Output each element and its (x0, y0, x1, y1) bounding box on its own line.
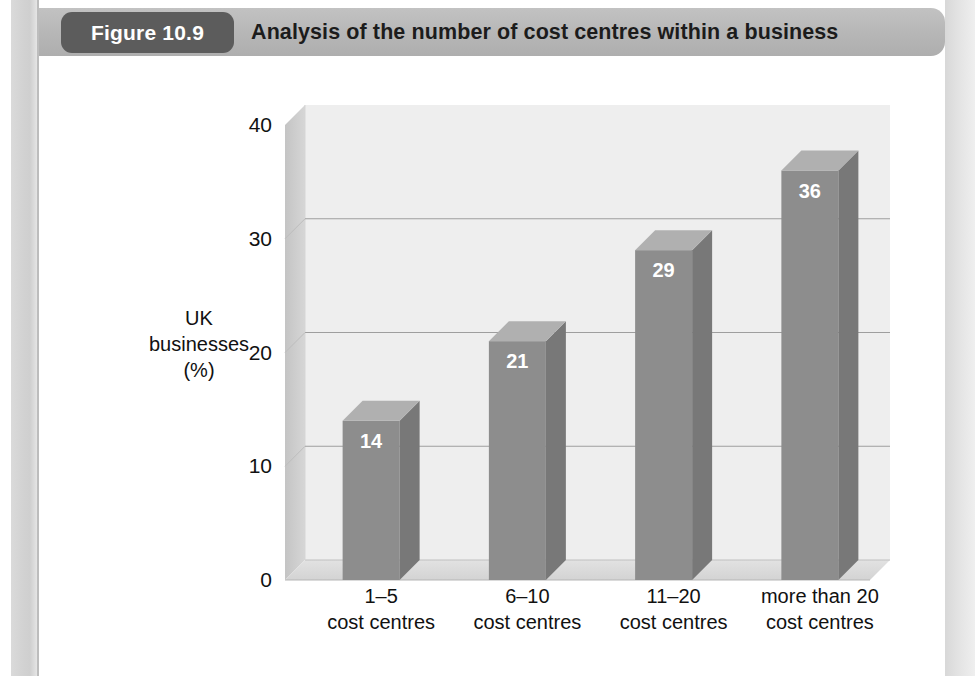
x-axis-category-line: cost centres (327, 611, 435, 633)
bar-side-face[interactable] (838, 151, 858, 581)
y-axis-title-line: (%) (183, 359, 214, 381)
bar-column[interactable]: 29 (635, 230, 712, 580)
y-tick-label: 0 (260, 568, 272, 591)
bar-side-face[interactable] (692, 230, 712, 580)
bar-column[interactable]: 21 (489, 321, 566, 580)
bar-front-face[interactable] (781, 171, 838, 581)
x-axis-category-line: cost centres (473, 611, 581, 633)
bar-front-face[interactable] (635, 250, 692, 580)
y-tick-label: 20 (249, 341, 272, 364)
x-axis-category-line: 6–10 (505, 585, 550, 607)
y-tick-label: 30 (249, 227, 272, 250)
bar-front-face[interactable] (489, 341, 546, 580)
x-axis-category-group: 1–5cost centres (327, 585, 435, 633)
y-axis-title-line: UK (185, 307, 213, 329)
bar-value-label: 29 (653, 259, 675, 281)
bar-value-label: 21 (506, 350, 528, 372)
bar-value-label: 14 (360, 430, 383, 452)
x-axis-category-group: 6–10cost centres (473, 585, 581, 633)
x-axis-category-line: cost centres (620, 611, 728, 633)
x-axis-category-line: cost centres (766, 611, 874, 633)
bar-value-label: 36 (799, 180, 821, 202)
y-axis-title: UKbusinesses(%) (149, 307, 249, 381)
x-axis-category-group: more than 20cost centres (761, 585, 879, 633)
x-axis-category-line: 1–5 (364, 585, 397, 607)
bar-chart: 14212936 010203040 1–5cost centres6–10co… (0, 0, 975, 676)
y-tick-label: 10 (249, 454, 272, 477)
x-axis-category-line: more than 20 (761, 585, 879, 607)
y-axis-tick-labels: 010203040 (249, 113, 272, 591)
y-tick-label: 40 (249, 113, 272, 136)
x-axis-category-group: 11–20cost centres (620, 585, 728, 633)
x-axis-category-labels: 1–5cost centres6–10cost centres11–20cost… (327, 585, 879, 633)
bar-side-face[interactable] (400, 401, 420, 580)
bar-column[interactable]: 36 (781, 151, 858, 581)
bar-side-face[interactable] (546, 321, 566, 580)
y-axis-title-line: businesses (149, 333, 249, 355)
bar-column[interactable]: 14 (343, 401, 420, 580)
x-axis-category-line: 11–20 (647, 585, 701, 607)
